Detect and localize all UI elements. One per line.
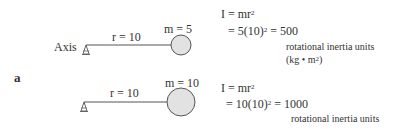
rotational-inertia-diagram <box>0 0 411 129</box>
mass-1 <box>171 35 191 55</box>
pivot-icon-2 <box>80 102 88 112</box>
formula-1-line-1: I = mr2 <box>221 8 255 20</box>
axis-label: Axis <box>54 41 77 53</box>
units-1-line-2: (kg • m2) <box>286 55 322 65</box>
formula-2-line-2: = 10(10)2 = 1000 <box>226 98 308 110</box>
mass-2 <box>167 88 195 116</box>
formula-2-line-1: I = mr2 <box>221 82 255 94</box>
mass-label-1: m = 5 <box>164 23 192 35</box>
panel-label: a <box>14 72 21 84</box>
units-2-line-1: rotational inertia units <box>291 114 379 124</box>
radius-label-2: r = 10 <box>110 87 139 99</box>
mass-label-2: m = 10 <box>165 77 199 89</box>
radius-label-1: r = 10 <box>112 31 141 43</box>
units-1-line-1: rotational inertia units <box>286 42 374 52</box>
formula-1-line-2: = 5(10)2 = 500 <box>228 25 298 37</box>
pivot-icon-1 <box>82 45 90 55</box>
